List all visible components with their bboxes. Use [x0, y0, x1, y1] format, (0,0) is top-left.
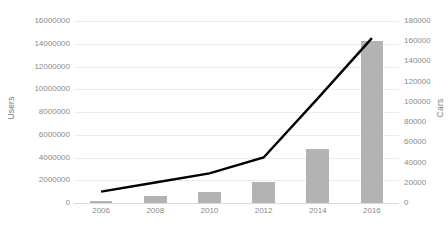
x-axis-tick-label: 2006: [81, 206, 121, 216]
y-axis-right-tick-label: 140000: [404, 57, 431, 65]
y-axis-left-tick-label: 8000000: [39, 108, 70, 116]
y-axis-right-tick-label: 100000: [404, 98, 431, 106]
y-axis-left-tick-label: 12000000: [34, 63, 70, 71]
line-path: [101, 38, 372, 192]
y-axis-right-tick-label: 80000: [404, 118, 426, 126]
axis-baseline: [74, 203, 399, 204]
y-axis-right-tick-label: 180000: [404, 17, 431, 25]
y-axis-left-tick-label: 4000000: [39, 154, 70, 162]
y-axis-right-tick-label: 40000: [404, 159, 426, 167]
x-axis-tick-label: 2008: [135, 206, 175, 216]
y-axis-left-tick-label: 14000000: [34, 40, 70, 48]
y-axis-left-tick-label: 2000000: [39, 176, 70, 184]
y-axis-right-tick-label: 120000: [404, 78, 431, 86]
y-axis-right-tick-label: 0: [404, 199, 408, 207]
x-axis-ticks: 200620082010201220142016: [74, 206, 399, 226]
y-axis-right-tick-label: 20000: [404, 179, 426, 187]
y-axis-left-ticks: 0200000040000006000000800000010000000120…: [14, 0, 70, 231]
y-axis-right-tick-label: 160000: [404, 37, 431, 45]
x-axis-tick-label: 2012: [244, 206, 284, 216]
y-axis-left-tick-label: 10000000: [34, 85, 70, 93]
y-axis-left-tick-label: 0: [66, 199, 70, 207]
x-axis-tick-label: 2016: [352, 206, 392, 216]
chart-canvas: Users Cars 02000000400000060000008000000…: [0, 0, 448, 231]
plot-area: [74, 21, 399, 203]
y-axis-left-tick-label: 6000000: [39, 131, 70, 139]
x-axis-tick-label: 2014: [298, 206, 338, 216]
x-axis-tick-label: 2010: [189, 206, 229, 216]
y-axis-right-ticks: 0200004000060000800001000001200001400001…: [404, 0, 448, 231]
y-axis-right-tick-label: 60000: [404, 138, 426, 146]
y-axis-left-tick-label: 16000000: [34, 17, 70, 25]
line-series-users: [74, 21, 399, 203]
